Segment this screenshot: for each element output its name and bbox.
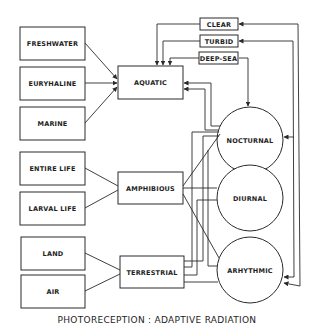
diurnal-label: DIURNAL: [233, 195, 267, 203]
left-box-marine: MARINE: [20, 107, 85, 140]
arhythmic-label: ARHYTHMIC: [227, 267, 273, 275]
freshwater-label: FRESHWATER: [27, 40, 78, 48]
habitat-box-amphibious: AMPHIBIOUS: [118, 172, 183, 204]
turbid-label: TURBID: [205, 38, 234, 46]
water-box-clear: CLEAR: [200, 18, 238, 30]
terrestrial-label: TERRESTRIAL: [126, 269, 177, 277]
aquatic-label: AQUATIC: [134, 79, 167, 87]
left-box-air: AIR: [21, 275, 85, 308]
activity-circle-diurnal: DIURNAL: [217, 165, 283, 231]
connectors-water: [157, 24, 200, 65]
left-box-euryhaline: EURYHALINE: [20, 67, 85, 100]
land-label: LAND: [43, 250, 64, 258]
activity-circle-nocturnal: NOCTURNAL: [217, 107, 283, 173]
diagram-title: PHOTORECEPTION : ADAPTIVE RADIATION: [58, 315, 257, 325]
left-box-larval-life: LARVAL LIFE: [20, 192, 85, 225]
left-box-freshwater: FRESHWATER: [20, 27, 85, 60]
water-box-deep-sea: DEEP-SEA: [199, 52, 238, 64]
air-label: AIR: [46, 288, 59, 296]
deep-sea-label: DEEP-SEA: [200, 55, 237, 63]
connectors-left: [85, 43, 120, 291]
marine-label: MARINE: [37, 120, 67, 128]
amphibious-label: AMPHIBIOUS: [126, 185, 175, 193]
water-box-turbid: TURBID: [200, 35, 238, 47]
clear-label: CLEAR: [207, 21, 231, 29]
euryhaline-label: EURYHALINE: [29, 80, 77, 88]
larval-life-label: LARVAL LIFE: [29, 205, 77, 213]
activity-circle-arhythmic: ARHYTHMIC: [217, 237, 283, 303]
habitat-box-terrestrial: TERRESTRIAL: [120, 256, 184, 288]
left-box-entire-life: ENTIRE LIFE: [20, 152, 85, 185]
photoreception-diagram: FRESHWATER EURYHALINE MARINE ENTIRE LIFE…: [0, 0, 315, 328]
connectors-circles: [183, 83, 220, 282]
entire-life-label: ENTIRE LIFE: [29, 165, 75, 173]
nocturnal-label: NOCTURNAL: [227, 137, 274, 145]
left-box-land: LAND: [21, 237, 85, 270]
habitat-box-aquatic: AQUATIC: [118, 66, 183, 99]
